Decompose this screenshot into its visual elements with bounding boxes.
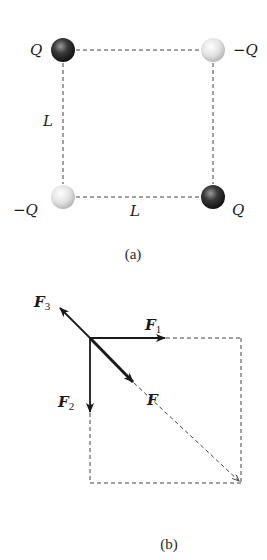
- vector-f2-label: F2: [57, 393, 74, 412]
- vector-f-label: F: [146, 391, 159, 409]
- vector-f3-label: F3: [33, 293, 51, 312]
- label-bottom-right: Q: [232, 201, 244, 219]
- square-outline: [63, 50, 213, 197]
- vector-f-resultant-arrow: [90, 338, 133, 382]
- vector-f1-label: F1: [144, 316, 161, 335]
- label-top-right: −Q: [233, 41, 258, 59]
- label-bottom-left: −Q: [13, 201, 38, 219]
- charge-top-left-positive: [51, 38, 75, 62]
- side-label-left: L: [42, 112, 53, 130]
- figure-a: Q −Q −Q Q L L (a): [13, 38, 258, 263]
- charge-top-right-negative: [201, 38, 225, 62]
- figure-b: F3 F1 F2 F (b): [33, 293, 241, 553]
- side-label-bottom: L: [129, 202, 140, 220]
- label-top-left: Q: [30, 41, 42, 59]
- caption-b: (b): [160, 536, 178, 553]
- charge-bottom-right-positive: [201, 185, 225, 209]
- charge-bottom-left-negative: [51, 185, 75, 209]
- vector-f3-arrow: [60, 308, 90, 338]
- caption-a: (a): [125, 246, 142, 263]
- physics-figure: Q −Q −Q Q L L (a) F3 F1 F2 F (b): [0, 0, 267, 560]
